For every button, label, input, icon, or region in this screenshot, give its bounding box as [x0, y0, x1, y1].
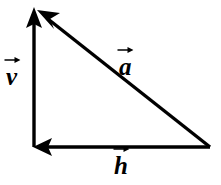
- vector-label-v-text: v: [6, 63, 17, 90]
- vector-label-h: h: [114, 153, 128, 178]
- vector-triangle-diagram: [0, 0, 221, 185]
- vector-label-v: v: [6, 64, 17, 89]
- vector-label-a-text: a: [119, 53, 132, 80]
- vector-triangle-figure: v a h: [0, 0, 221, 185]
- vector-a-shaft: [48, 19, 210, 147]
- vector-v-arrow: [26, 7, 42, 147]
- vector-label-a: a: [119, 54, 132, 79]
- vector-label-h-text: h: [114, 152, 128, 179]
